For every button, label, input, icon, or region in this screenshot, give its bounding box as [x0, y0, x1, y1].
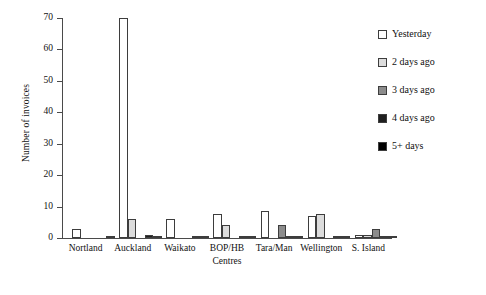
bar	[261, 211, 270, 238]
y-axis-tick-label: 40	[44, 105, 54, 118]
y-axis-tick-label: 20	[44, 168, 54, 181]
legend-label: 5+ days	[392, 140, 423, 152]
bar-group	[203, 18, 250, 238]
legend-swatch-icon	[378, 86, 387, 95]
x-axis-tick-label: Nortland	[69, 242, 103, 254]
bar	[166, 219, 175, 238]
legend-label: 2 days ago	[392, 56, 435, 68]
bar	[213, 214, 222, 238]
bar-group	[298, 18, 345, 238]
x-axis-title: Centres	[62, 256, 392, 266]
bar	[380, 236, 389, 238]
bar	[239, 236, 248, 239]
legend-item: 2 days ago	[378, 48, 486, 76]
legend-swatch-icon	[378, 114, 387, 123]
legend-swatch-icon	[378, 142, 387, 151]
bar	[355, 235, 364, 238]
x-axis-tick-label: Wellington	[300, 242, 342, 254]
bar	[333, 236, 342, 238]
y-axis-tick-label: 30	[44, 137, 54, 150]
bar	[372, 229, 381, 238]
bar	[389, 236, 398, 238]
y-axis-tick-label: 70	[44, 11, 54, 24]
bar-series-container	[62, 18, 392, 238]
bar	[316, 214, 325, 238]
bar	[192, 236, 201, 239]
x-axis-tick-label: BOP/HB	[210, 242, 244, 254]
legend-swatch-icon	[378, 58, 387, 67]
legend-item: Yesterday	[378, 20, 486, 48]
y-axis-tick-label: 50	[44, 74, 54, 87]
legend-swatch-icon	[378, 30, 387, 39]
legend-label: 4 days ago	[392, 112, 435, 124]
chart-legend: Yesterday2 days ago3 days ago4 days ago5…	[378, 20, 486, 160]
bar	[119, 18, 128, 238]
invoice-age-bar-chart: Number of invoices 010203040506070 Nortl…	[0, 0, 486, 295]
bar-group	[251, 18, 298, 238]
y-axis-tick-label: 10	[44, 200, 54, 213]
bar	[308, 216, 317, 238]
x-axis-line	[62, 238, 392, 239]
bar-group	[156, 18, 203, 238]
bar	[145, 235, 154, 238]
y-axis-title: Number of invoices	[21, 53, 31, 193]
bar-group	[109, 18, 156, 238]
legend-label: Yesterday	[392, 28, 432, 40]
y-axis-tick: 0	[57, 238, 62, 239]
bar	[222, 225, 231, 238]
legend-item: 3 days ago	[378, 76, 486, 104]
x-axis-tick-label: Auckland	[114, 242, 151, 254]
x-axis-tick-label: S. Island	[352, 242, 385, 254]
bar	[128, 219, 137, 238]
bar	[286, 236, 295, 238]
bar	[72, 229, 81, 238]
y-axis-tick-label: 60	[44, 42, 54, 55]
plot-area: 010203040506070 NortlandAucklandWaikatoB…	[62, 18, 392, 238]
x-axis-tick-label: Waikato	[164, 242, 195, 254]
legend-item: 4 days ago	[378, 104, 486, 132]
x-axis-tick-label: Tara/Man	[256, 242, 293, 254]
bar	[278, 225, 287, 238]
legend-label: 3 days ago	[392, 84, 435, 96]
bar	[363, 235, 372, 238]
legend-item: 5+ days	[378, 132, 486, 160]
bar-group	[62, 18, 109, 238]
y-axis-tick-label: 0	[48, 231, 53, 244]
